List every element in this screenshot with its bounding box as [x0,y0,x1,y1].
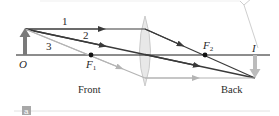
image-arrow [250,55,261,78]
focal-point-f1 [89,53,94,58]
focal-f1-label: F1 [85,58,97,72]
back-label: Back [221,84,243,95]
ray-diagram: 1 2 3 O I F1 F2 Front Back a [0,0,279,116]
focal-point-f2 [203,53,208,58]
converging-lens [140,16,151,86]
image-label: I [251,42,257,54]
panel-label-a: a [22,106,31,116]
object-label: O [19,58,27,70]
ray-3-label: 3 [46,40,52,52]
ray-1-label: 1 [62,15,68,27]
ray-2-label: 2 [83,29,89,41]
focal-f2-label: F2 [202,39,214,53]
svg-text:a: a [24,107,29,116]
front-label: Front [78,84,101,95]
object-arrow [20,28,31,55]
